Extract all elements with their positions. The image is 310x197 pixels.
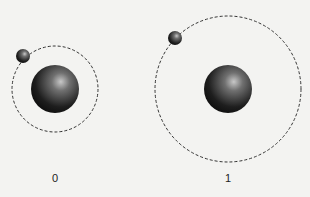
electron-1 <box>168 31 182 45</box>
atom-label-0: 0 <box>45 172 65 184</box>
nucleus-1 <box>204 65 252 113</box>
atom-1 <box>155 16 301 162</box>
electron-0 <box>16 49 30 63</box>
atom-label-1: 1 <box>218 172 238 184</box>
atom-diagram <box>0 0 310 197</box>
nucleus-0 <box>31 65 79 113</box>
atom-0 <box>12 46 98 132</box>
